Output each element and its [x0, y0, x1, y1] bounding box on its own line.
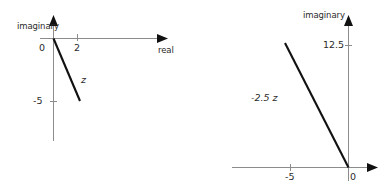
left-xtick-label-0: 0 — [39, 43, 45, 53]
right-imaginary-axis-arrowhead — [344, 15, 353, 26]
right-real-axis-arrowhead — [367, 163, 378, 172]
chart-panel-right: imaginary 12.5 -5 0 -2.5 z — [195, 0, 390, 192]
right-xtick-label-0: 0 — [350, 172, 356, 182]
right-curve-label-minus2point5z: -2.5 z — [251, 93, 278, 103]
left-xtick-label-2: 2 — [74, 43, 80, 53]
left-real-axis-label: real — [158, 45, 174, 55]
right-curve-minus2point5z — [285, 43, 349, 168]
chart-panel-left: imaginary real 0 2 -5 z — [0, 0, 195, 192]
left-real-axis-arrowhead — [157, 34, 168, 43]
figure-canvas: imaginary real 0 2 -5 z imaginary 12.5 -… — [0, 0, 390, 192]
right-plot-graphics — [195, 0, 390, 192]
right-ytick-label-12point5: 12.5 — [323, 40, 344, 50]
right-imaginary-axis-label: imaginary — [303, 10, 345, 20]
left-ytick-label-minus5: -5 — [33, 96, 42, 106]
left-curve-label-z: z — [81, 75, 86, 85]
right-xtick-label-minus5: -5 — [285, 172, 294, 182]
left-imaginary-axis-label: imaginary — [17, 21, 59, 31]
